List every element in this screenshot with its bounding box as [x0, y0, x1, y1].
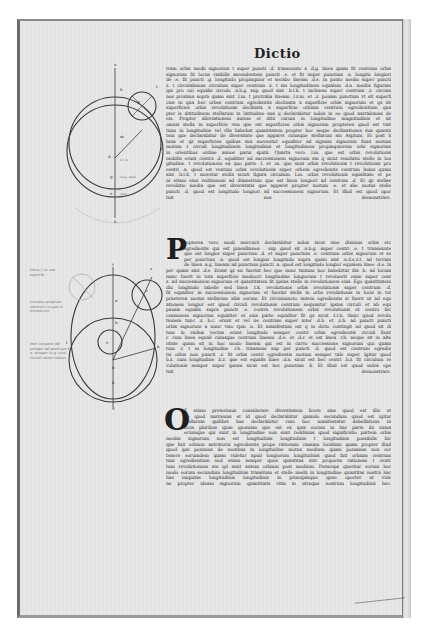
- svg-text:h: h: [120, 87, 123, 92]
- svg-text:z: z: [138, 99, 140, 104]
- svg-text:e: e: [106, 340, 109, 345]
- svg-text:b: b: [112, 380, 115, 385]
- svg-text:b: b: [114, 219, 117, 224]
- text-line: tuit nos demonstrare.: [166, 195, 391, 201]
- svg-text:m: m: [120, 134, 124, 139]
- svg-text:h: h: [115, 320, 118, 325]
- text-line: pausis equalis supra puncti .e. contra r…: [166, 307, 391, 313]
- text-line: T etiam preterimus considerare diversita…: [166, 408, 391, 414]
- text-line: nos proxima sopra quam sint .l.m. t prot…: [166, 94, 391, 100]
- text-line: praeterea motus stellarum aliis eorum. E…: [166, 296, 391, 302]
- text-line: ne propter ideam signorum quantitatis vi…: [166, 481, 391, 487]
- text-line: z. ad successionem signorum et quantitat…: [166, 279, 391, 285]
- margin-note: Hoc tempore dd semper ad punctum b a. se…: [30, 342, 70, 360]
- page-edge: [402, 19, 411, 618]
- text-line: volutionis semper super ipsum sicut est …: [166, 363, 391, 369]
- text-line: per quam sint .d.e. Erunt qz sic fuerint…: [166, 268, 391, 274]
- text-line: quod ipsi ponimus de motibus in longitud…: [166, 447, 391, 453]
- svg-text:g: g: [110, 174, 113, 179]
- svg-text:g: g: [112, 405, 115, 410]
- svg-text:t: t: [156, 84, 158, 89]
- text-line: gitudine. t revolutionem ea quo parte .l…: [166, 161, 391, 167]
- text-line: tram orbis medii signorum t super puncti…: [166, 66, 391, 72]
- svg-text:long. medi: long. medi: [120, 175, 136, 179]
- svg-text:a: a: [114, 62, 117, 67]
- text-line: has iniquitas longitudinis longitudinis …: [166, 475, 391, 481]
- upper-astronomical-diagram: a h z t k m d g e b h t m long. medi cen…: [60, 58, 170, 238]
- text-column-block-3: T etiam preterimus considerare diversita…: [166, 408, 391, 486]
- svg-text:h t m: h t m: [120, 158, 128, 162]
- margin-note: circulus proprius mercurii in que in ecc…: [30, 300, 70, 314]
- text-line: in orientibus ordine annos parui spatii.…: [166, 150, 391, 156]
- text-line: r. cum linea equali cuiusque centrum lin…: [166, 335, 391, 341]
- text-line: superficies orbis revolutionis declinata…: [166, 105, 391, 111]
- svg-text:cent.: cent.: [120, 192, 128, 196]
- svg-text:z: z: [150, 266, 152, 271]
- text-line: tum revolutionum sm qd sunt autem orbium…: [166, 464, 391, 470]
- text-line: mediis signorum non est longitudinis lon…: [166, 436, 391, 442]
- svg-text:a: a: [115, 298, 118, 303]
- margin-note: locus f. in vno epiciclo: [30, 268, 70, 277]
- svg-text:d: d: [112, 365, 115, 370]
- text-column-block-2: ropterea vero modi mercurii declarabitur…: [166, 240, 391, 374]
- svg-text:r: r: [146, 288, 148, 293]
- svg-text:t: t: [112, 262, 114, 267]
- text-line: stellarum quilibet has declarabitur cum …: [166, 419, 391, 425]
- text-line: de .e. fit puncti .g. longitudo propinqu…: [166, 77, 391, 83]
- svg-text:e: e: [110, 191, 113, 196]
- text-line: orbis signorum a nunc viso rpm .n. Et ma…: [166, 324, 391, 330]
- text-column-block-1: tram orbis medii signorum t super puncti…: [166, 66, 391, 200]
- svg-text:k: k: [157, 344, 160, 349]
- epicycle-circle: [132, 280, 162, 310]
- running-head: Dictio: [254, 46, 301, 61]
- text-line: omnis stella in superficie vna que est s…: [166, 122, 391, 128]
- small-center-circle: [98, 330, 122, 354]
- text-line: tem que declarabitur de diversitate que …: [166, 133, 391, 139]
- svg-text:d: d: [108, 154, 111, 159]
- text-line: ropterea vero modi mercurii declarabitur…: [166, 240, 391, 246]
- text-line: puncti .d. quod est longitudo longiori a…: [166, 189, 391, 195]
- text-line: que est longior super punctum .d. et sup…: [166, 251, 391, 257]
- text-line: tuit demonstrare.: [166, 369, 391, 375]
- lower-astronomical-diagram: t a h e d b g k z r l: [60, 262, 170, 412]
